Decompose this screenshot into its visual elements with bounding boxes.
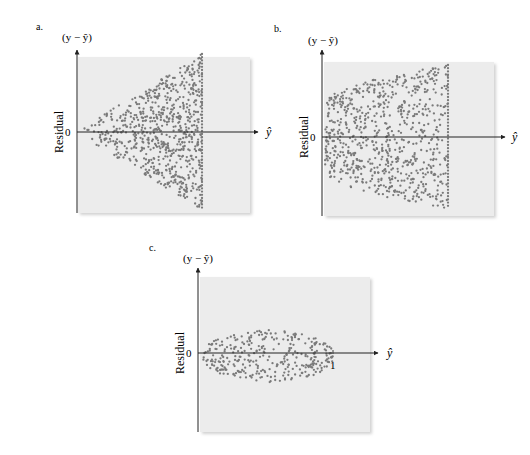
plot-c: c. (y − ŷ) 1 0 Residual ŷ	[149, 242, 393, 432]
xlabel-a: ŷ	[265, 125, 272, 139]
y-axis-title-a: (y − ŷ)	[62, 31, 92, 44]
xlabel-c: ŷ	[386, 346, 393, 360]
ylabel-a: Residual	[52, 110, 66, 153]
plot-a: a. (y − ŷ) 0 Residual ŷ	[36, 21, 272, 213]
plot-area-a	[78, 57, 250, 213]
panel-label-b: b.	[274, 23, 282, 34]
xlabel-b: ŷ	[511, 130, 518, 144]
y-axis-title-b: (y − ŷ)	[308, 34, 338, 47]
ylabel-b: Residual	[297, 115, 311, 158]
x-tick-label-1: 1	[330, 359, 336, 371]
plot-area-c	[200, 277, 370, 432]
residual-plots-figure: a. (y − ŷ) 0 Residual ŷ b. (y − ŷ) 0 Res…	[0, 0, 530, 455]
y-axis-title-c: (y − ŷ)	[183, 252, 213, 265]
panel-label-a: a.	[36, 21, 43, 32]
panel-label-c: c.	[149, 242, 156, 253]
ylabel-c: Residual	[173, 331, 187, 374]
plot-b: b. (y − ŷ) 0 Residual ŷ	[274, 23, 518, 216]
